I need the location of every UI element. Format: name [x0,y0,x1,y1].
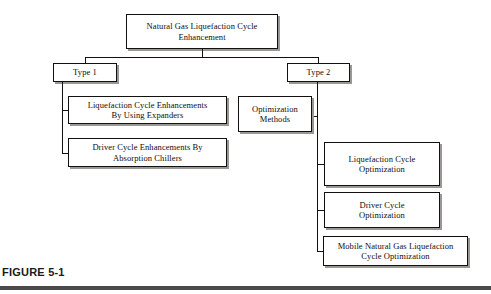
figure-bottom-rule [0,286,491,290]
node-optimization-methods-label: Optimization Methods [252,104,298,125]
node-driver-cycle-optimization-label: Driver Cycle Optimization [359,200,405,221]
node-driver-cycle-enhancements-label: Driver Cycle Enhancements By Absorption … [92,142,202,163]
node-driver-cycle-optimization: Driver Cycle Optimization [324,192,440,228]
figure-caption: FIGURE 5-1 [2,266,65,278]
connector-root-bus [85,57,318,58]
connector-type1-spine [62,82,63,154]
node-mobile-natural-gas-liquefaction-cycle-optimization-label: Mobile Natural Gas Liquefaction Cycle Op… [338,241,454,262]
node-driver-cycle-enhancements: Driver Cycle Enhancements By Absorption … [68,138,227,167]
node-liquefaction-cycle-enhancements: Liquefaction Cycle Enhancements By Using… [68,96,227,124]
node-liquefaction-cycle-optimization-label: Liquefaction Cycle Optimization [349,154,416,175]
connector-type2-stub-optimization-methods [311,116,318,117]
node-optimization-methods: Optimization Methods [238,96,312,132]
node-type-1-label: Type 1 [73,67,97,77]
node-liquefaction-cycle-enhancements-label: Liquefaction Cycle Enhancements By Using… [88,100,208,121]
node-root-label: Natural Gas Liquefaction Cycle Enhanceme… [147,21,258,42]
figure-container: Natural Gas Liquefaction Cycle Enhanceme… [0,0,491,294]
connector-type2-spine [317,82,318,252]
node-mobile-natural-gas-liquefaction-cycle-optimization: Mobile Natural Gas Liquefaction Cycle Op… [323,236,468,266]
node-type-2-label: Type 2 [307,67,331,77]
node-root: Natural Gas Liquefaction Cycle Enhanceme… [126,14,278,49]
node-type-1: Type 1 [53,63,117,82]
node-type-2: Type 2 [287,63,350,82]
node-liquefaction-cycle-optimization: Liquefaction Cycle Optimization [324,142,440,186]
